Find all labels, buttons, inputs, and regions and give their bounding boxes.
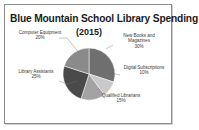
leader-line-newbooks — [106, 45, 113, 49]
pie-label-library-line2: Assistants — [33, 69, 53, 74]
pie-label-digital-line2: Subscriptions — [137, 65, 164, 70]
pie-label-library-line1: Library — [18, 69, 32, 74]
pie-label-computer-line1: Computer — [19, 30, 39, 35]
pie-label-digital-subscriptions: Digital Subscriptions 10% — [121, 65, 167, 76]
pie-label-computer-line2: Equipment — [40, 30, 62, 35]
pie-label-qualified-pct: 15% — [99, 98, 143, 103]
pie-label-digital-pct: 10% — [121, 70, 167, 75]
pie-label-qualified-line2: Librarians — [121, 93, 141, 98]
pie-label-computer-equipment: Computer Equipment 20% — [17, 30, 63, 41]
pie-label-newbooks-line1: New Books and — [123, 33, 155, 38]
pie-label-library-assistants: Library Assistants 25% — [13, 69, 59, 80]
pie-label-computer-pct: 20% — [17, 35, 63, 40]
pie-label-new-books-magazines: New Books and Magazines 30% — [115, 33, 163, 49]
pie-label-qualified-librarians: Qualified Librarians 15% — [99, 93, 143, 104]
pie-label-newbooks-line2: Magazines — [128, 38, 150, 43]
pie-label-digital-line1: Digital — [124, 65, 136, 70]
pie-label-qualified-line1: Qualified — [102, 93, 120, 98]
chart-frame: Blue Mountain School Library Spending (2… — [4, 4, 172, 124]
pie-label-library-pct: 25% — [13, 74, 59, 79]
pie-label-newbooks-pct: 30% — [115, 44, 163, 49]
